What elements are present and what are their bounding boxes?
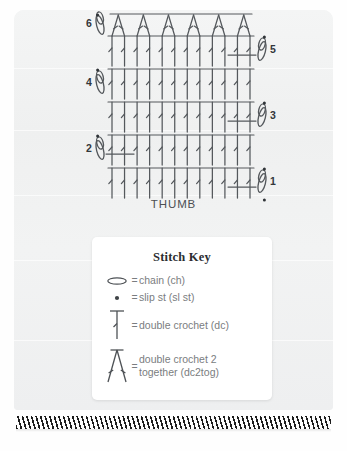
key-label-double-crochet: double crochet (dc) [139, 319, 229, 332]
key-label-chain: chain (ch) [139, 274, 185, 287]
row-number-1: 1 [270, 175, 276, 187]
stitch-key-list: = chain (ch) = slip st (sl st) [92, 274, 272, 385]
key-equals-slip: = [130, 291, 139, 304]
crochet-chart: 123456 THUMB [14, 10, 333, 215]
double-crochet-icon [104, 308, 130, 342]
key-item-double-crochet: = double crochet (dc) [104, 308, 272, 342]
key-item-dc2tog: = double crochet 2 together (dc2tog) [104, 347, 272, 385]
hatch-shadow [16, 429, 331, 432]
slip-stitch-dot [263, 36, 266, 39]
row-number-5: 5 [270, 43, 276, 55]
dc2tog-icon [104, 347, 130, 385]
key-label-dc2tog: double crochet 2 together (dc2tog) [139, 353, 219, 379]
key-item-slip-stitch: = slip st (sl st) [104, 291, 272, 304]
row-number-2: 2 [86, 142, 92, 154]
slip-stitch-dot [263, 168, 266, 171]
row-number-3: 3 [270, 109, 276, 121]
row-number-6: 6 [86, 17, 92, 29]
stitch-key-title: Stitch Key [92, 250, 272, 265]
chart-canvas: 123456 [14, 10, 333, 215]
key-equals-dc2tog: = [130, 360, 139, 373]
slip-stitch-dot [96, 14, 99, 17]
stitch-key-card: Stitch Key = chain (ch) = slip st [92, 237, 272, 400]
key-label-slip-stitch: slip st (sl st) [139, 291, 194, 304]
row-number-4: 4 [86, 76, 92, 88]
key-equals-chain: = [130, 274, 139, 287]
thumb-label: THUMB [14, 198, 333, 210]
page-edge-hatch [16, 416, 331, 429]
slip-stitch-dot [96, 135, 99, 138]
page-root: 123456 THUMB Stitch Key = chain (ch) [0, 0, 347, 451]
slip-stitch-dot [96, 69, 99, 72]
slip-stitch-dot-icon [104, 293, 130, 303]
slip-stitch-dot [263, 102, 266, 105]
key-item-chain: = chain (ch) [104, 274, 272, 287]
key-equals-dc: = [130, 319, 139, 332]
chain-oval-icon [104, 276, 130, 286]
